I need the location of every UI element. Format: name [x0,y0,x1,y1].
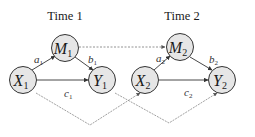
label-b2: b2 [209,53,219,67]
label-c2: c2 [184,86,193,100]
title-time1: Time 1 [47,9,82,23]
title-time2: Time 2 [164,9,199,23]
node-y2: Y2 [209,67,236,94]
label-b1: b1 [88,53,98,67]
node-x2: X2 [132,67,159,94]
node-x1: X1 [10,67,37,94]
node-y1: Y1 [89,67,116,94]
node-m1: M1 [52,35,79,62]
label-c1: c1 [64,87,73,101]
edge-y1-y2 [115,93,217,123]
mediation-diagram: Time 1 Time 2 M1 X1 Y1 M2 X2 Y2 a1 b1 c1… [0,0,255,137]
label-a2: a2 [156,52,166,66]
label-a1: a1 [34,53,44,67]
node-m2: M2 [167,34,194,61]
